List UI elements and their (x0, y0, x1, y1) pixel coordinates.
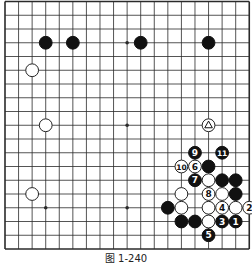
black-stone-1: 1 (229, 215, 242, 228)
move-number: 8 (205, 189, 211, 199)
white-stone (39, 119, 52, 132)
white-stone (202, 215, 215, 228)
white-stone (175, 201, 188, 214)
black-stone-5: 5 (202, 229, 215, 242)
white-stone-6: 6 (189, 160, 202, 173)
white-stone (202, 201, 215, 214)
figure-caption: 图 1-240 (0, 253, 252, 265)
black-stone (189, 215, 202, 228)
black-stone-7: 7 (189, 174, 202, 187)
move-number: 7 (192, 175, 198, 185)
black-stone (229, 174, 242, 187)
move-number: 4 (219, 203, 225, 213)
black-stone (134, 36, 147, 49)
move-number: 11 (217, 149, 227, 158)
move-number: 2 (246, 203, 252, 213)
go-board: 9111067842315 (0, 0, 252, 252)
black-stone (216, 174, 229, 187)
white-stone (216, 188, 229, 201)
white-stone (26, 188, 39, 201)
star-point (125, 123, 129, 127)
black-stone-11: 11 (216, 146, 229, 159)
black-stone (39, 36, 52, 49)
white-stone-2: 2 (243, 201, 252, 214)
move-number: 9 (192, 148, 198, 158)
move-number: 6 (192, 162, 198, 172)
white-stone (26, 64, 39, 77)
white-stone (202, 119, 215, 132)
black-stone (202, 36, 215, 49)
white-stone (229, 201, 242, 214)
star-point (125, 41, 129, 45)
black-stone (229, 188, 242, 201)
white-stone-8: 8 (202, 188, 215, 201)
white-stone-10: 10 (175, 160, 188, 173)
white-stone (202, 174, 215, 187)
black-stone-9: 9 (189, 146, 202, 159)
white-stone (175, 188, 188, 201)
black-stone-3: 3 (216, 215, 229, 228)
move-number: 5 (205, 230, 211, 240)
black-stone (202, 160, 215, 173)
move-number: 10 (176, 163, 186, 172)
star-point (44, 206, 48, 210)
white-stone-4: 4 (216, 201, 229, 214)
move-number: 1 (233, 217, 239, 227)
star-point (125, 206, 129, 210)
move-number: 3 (219, 217, 225, 227)
black-stone (161, 201, 174, 214)
black-stone (175, 215, 188, 228)
black-stone (66, 36, 79, 49)
